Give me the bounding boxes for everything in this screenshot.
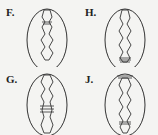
cell-diagram-g: [0, 67, 79, 135]
option-g[interactable]: G.: [0, 67, 79, 134]
option-h[interactable]: H.: [79, 0, 158, 67]
cell-diagram-j: [79, 67, 158, 135]
option-f[interactable]: F.: [0, 0, 79, 67]
cell-diagram-f: [0, 0, 79, 67]
cell-diagram-h: [79, 0, 158, 67]
option-j[interactable]: J.: [79, 67, 158, 134]
